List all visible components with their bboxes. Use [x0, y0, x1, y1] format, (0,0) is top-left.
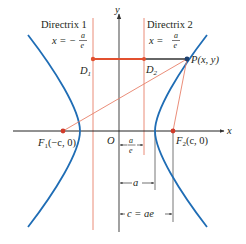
point-f2 — [171, 129, 176, 134]
directrix-1-title: Directrix 1 — [41, 19, 87, 30]
directrix-1-equation: x = − — [51, 35, 76, 46]
origin-label: O — [107, 135, 115, 146]
measure-a-over-e-denominator: e — [129, 146, 133, 155]
directrix-2-title: Directrix 2 — [147, 19, 193, 30]
x-axis-label: x — [226, 125, 232, 136]
directrix-1-denominator: e — [81, 41, 85, 50]
hyperbola-directrix-diagram: y x O Directrix 1 x = − a e Directrix 2 … — [0, 0, 246, 244]
segment-pf2 — [173, 59, 187, 131]
point-f1 — [61, 129, 66, 134]
f1-label: F1(−c, 0) — [37, 137, 77, 150]
directrix-2-numerator: a — [174, 31, 178, 40]
p-label: P(x, y) — [190, 54, 219, 66]
directrix-2-equation: x = — [148, 35, 163, 46]
measure-a-over-e-numerator: a — [129, 136, 133, 145]
directrix-1-numerator: a — [81, 31, 85, 40]
d1-label: D1 — [79, 65, 91, 78]
d2-label: D2 — [145, 64, 158, 77]
f2-label: F2(c, 0) — [175, 135, 209, 148]
directrix-2-denominator: e — [174, 41, 178, 50]
point-p — [185, 57, 190, 62]
point-d1 — [91, 57, 95, 61]
y-axis-label: y — [114, 4, 120, 15]
measure-a-label: a — [133, 177, 138, 188]
point-d2 — [142, 57, 146, 61]
measure-c-label: c = ae — [127, 208, 154, 219]
